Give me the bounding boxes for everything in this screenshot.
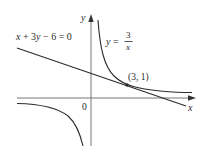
line-equation-label: x + 3y − 6 = 0 [15,31,72,42]
hyperbola-branch-negative [17,104,83,147]
tangent-point-label: (3, 1) [128,72,149,83]
y-axis-label: y [80,12,86,23]
x-axis-label: x [187,102,193,113]
origin-label: 0 [82,102,87,112]
x-axis-arrow-icon [188,95,196,100]
tangent-point-marker [125,83,128,86]
hyperbola-equation-label: y = 3 x [105,30,133,52]
fraction-denominator: x [125,42,130,52]
graph-canvas: y x 0 x + 3y − 6 = 0 y = 3 x (3, 1) [0,0,202,156]
y-axis-arrow-icon [88,14,93,22]
tangent-line [17,48,186,106]
fraction-numerator: 3 [126,30,131,40]
svg-text:y =: y = [105,36,119,47]
